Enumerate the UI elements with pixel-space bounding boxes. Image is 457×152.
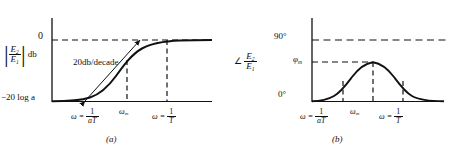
x-tick-label-wm-a: ωm <box>119 108 128 116</box>
fraction-1overT-b: 1T <box>394 108 402 126</box>
x-tick-label-1overaT-b: ω = 1aT <box>300 108 328 126</box>
x-tick-label-1overaT-a: ω = 1aT <box>71 108 99 126</box>
angle-icon: ∠ <box>234 56 242 66</box>
fraction-1overaT-b: 1aT <box>315 108 327 126</box>
ratio-fraction-a: E2E1 <box>9 45 21 65</box>
phase-curve-b <box>312 62 444 101</box>
y-tick-label-0deg-b: 0° <box>278 90 286 99</box>
fraction-denominator-a: E1 <box>9 55 21 64</box>
asymptote-line-a <box>85 40 140 101</box>
fraction-denominator-b: E1 <box>244 62 256 71</box>
chart-panel-b: ∠ E2E1 90° φm 0° ω = 1aT ωm ω = 1T (b) <box>228 0 457 152</box>
y-tick-label-90deg-b: 90° <box>274 32 287 41</box>
y-tick-label-zero-a: 0 <box>38 31 43 41</box>
chart-a-svg <box>0 0 228 152</box>
x-tick-label-1overT-a: ω = 1T <box>152 108 176 126</box>
y-tick-label-phim-b: φm <box>293 55 302 64</box>
y-axis-label-a: |E2E1| db <box>4 45 37 65</box>
fraction-1overT-a: 1T <box>167 108 175 126</box>
chart-panel-a: |E2E1| db 0 −20 log a 20db/decade ω = 1a… <box>0 0 228 152</box>
figure-container: |E2E1| db 0 −20 log a 20db/decade ω = 1a… <box>0 0 457 152</box>
db-unit-a: db <box>28 49 37 59</box>
caption-a: (a) <box>106 134 117 144</box>
x-tick-label-wm-b: ωm <box>350 108 359 116</box>
fraction-1overaT-a: 1aT <box>86 108 98 126</box>
y-axis-label-b: ∠ E2E1 <box>234 52 257 72</box>
y-tick-label-minus20loga-a: −20 log a <box>1 93 35 102</box>
slope-annotation-a: 20db/decade <box>73 58 118 67</box>
ratio-fraction-b: E2E1 <box>244 52 256 72</box>
x-tick-label-1overT-b: ω = 1T <box>379 108 403 126</box>
chart-b-svg <box>228 0 457 152</box>
abs-bar-right-icon: | <box>21 48 26 62</box>
caption-b: (b) <box>332 134 343 144</box>
